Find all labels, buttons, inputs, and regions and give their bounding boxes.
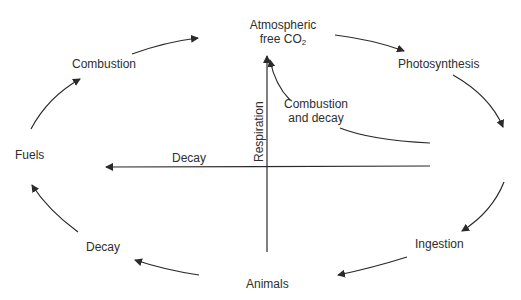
atmospheric-label: Atmospheric xyxy=(236,18,330,32)
node-combustion: Combustion xyxy=(72,57,136,71)
arrow-decay-horizontal xyxy=(106,166,430,167)
arrow-to-ingestion xyxy=(462,182,504,231)
arrow-combustion-to-atmosphere xyxy=(132,38,198,54)
arrow-decay-to-fuels xyxy=(32,185,78,232)
arrow-combustion-and-decay xyxy=(340,128,430,143)
node-fuels: Fuels xyxy=(15,148,44,162)
combustion-and-decay-line1: Combustion xyxy=(276,97,356,111)
node-ingestion: Ingestion xyxy=(415,237,464,251)
arrow-animals-to-decay xyxy=(135,260,199,275)
combustion-and-decay-line2: and decay xyxy=(276,111,356,125)
arrow-photosynthesis-down xyxy=(453,75,503,127)
co2-subscript: 2 xyxy=(302,38,306,47)
label-combustion-and-decay: Combustion and decay xyxy=(276,97,356,125)
arrow-ingestion-to-animals xyxy=(338,257,407,275)
carbon-cycle-diagram: Atmospheric free CO2 Photosynthesis Inge… xyxy=(0,0,521,300)
node-atmospheric-co2: Atmospheric free CO2 xyxy=(236,18,330,50)
node-decay: Decay xyxy=(86,240,120,254)
node-photosynthesis: Photosynthesis xyxy=(398,57,479,71)
label-respiration: Respiration xyxy=(252,101,266,162)
arrow-atmosphere-to-photosynthesis xyxy=(335,35,404,51)
free-co2-label: free CO2 xyxy=(236,32,330,50)
arrow-combustion-and-decay-top xyxy=(270,60,290,100)
node-animals: Animals xyxy=(246,277,289,291)
label-decay-axis: Decay xyxy=(172,151,206,165)
arrow-fuels-to-combustion xyxy=(31,79,80,129)
free-co-text: free CO xyxy=(260,32,302,46)
